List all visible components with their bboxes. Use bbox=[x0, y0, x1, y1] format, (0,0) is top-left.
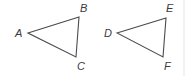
triangle-def-outline bbox=[117, 18, 166, 57]
geometry-figure: A B C D E F bbox=[0, 0, 185, 76]
vertex-label-f: F bbox=[164, 61, 171, 72]
vertex-label-e: E bbox=[166, 3, 173, 14]
right-edge-artifact bbox=[183, 0, 185, 76]
triangles-canvas bbox=[0, 0, 185, 76]
triangle-abc-outline bbox=[28, 17, 79, 57]
vertex-label-a: A bbox=[15, 28, 22, 39]
vertex-label-d: D bbox=[104, 28, 112, 39]
vertex-label-b: B bbox=[80, 3, 87, 14]
vertex-label-c: C bbox=[77, 61, 85, 72]
